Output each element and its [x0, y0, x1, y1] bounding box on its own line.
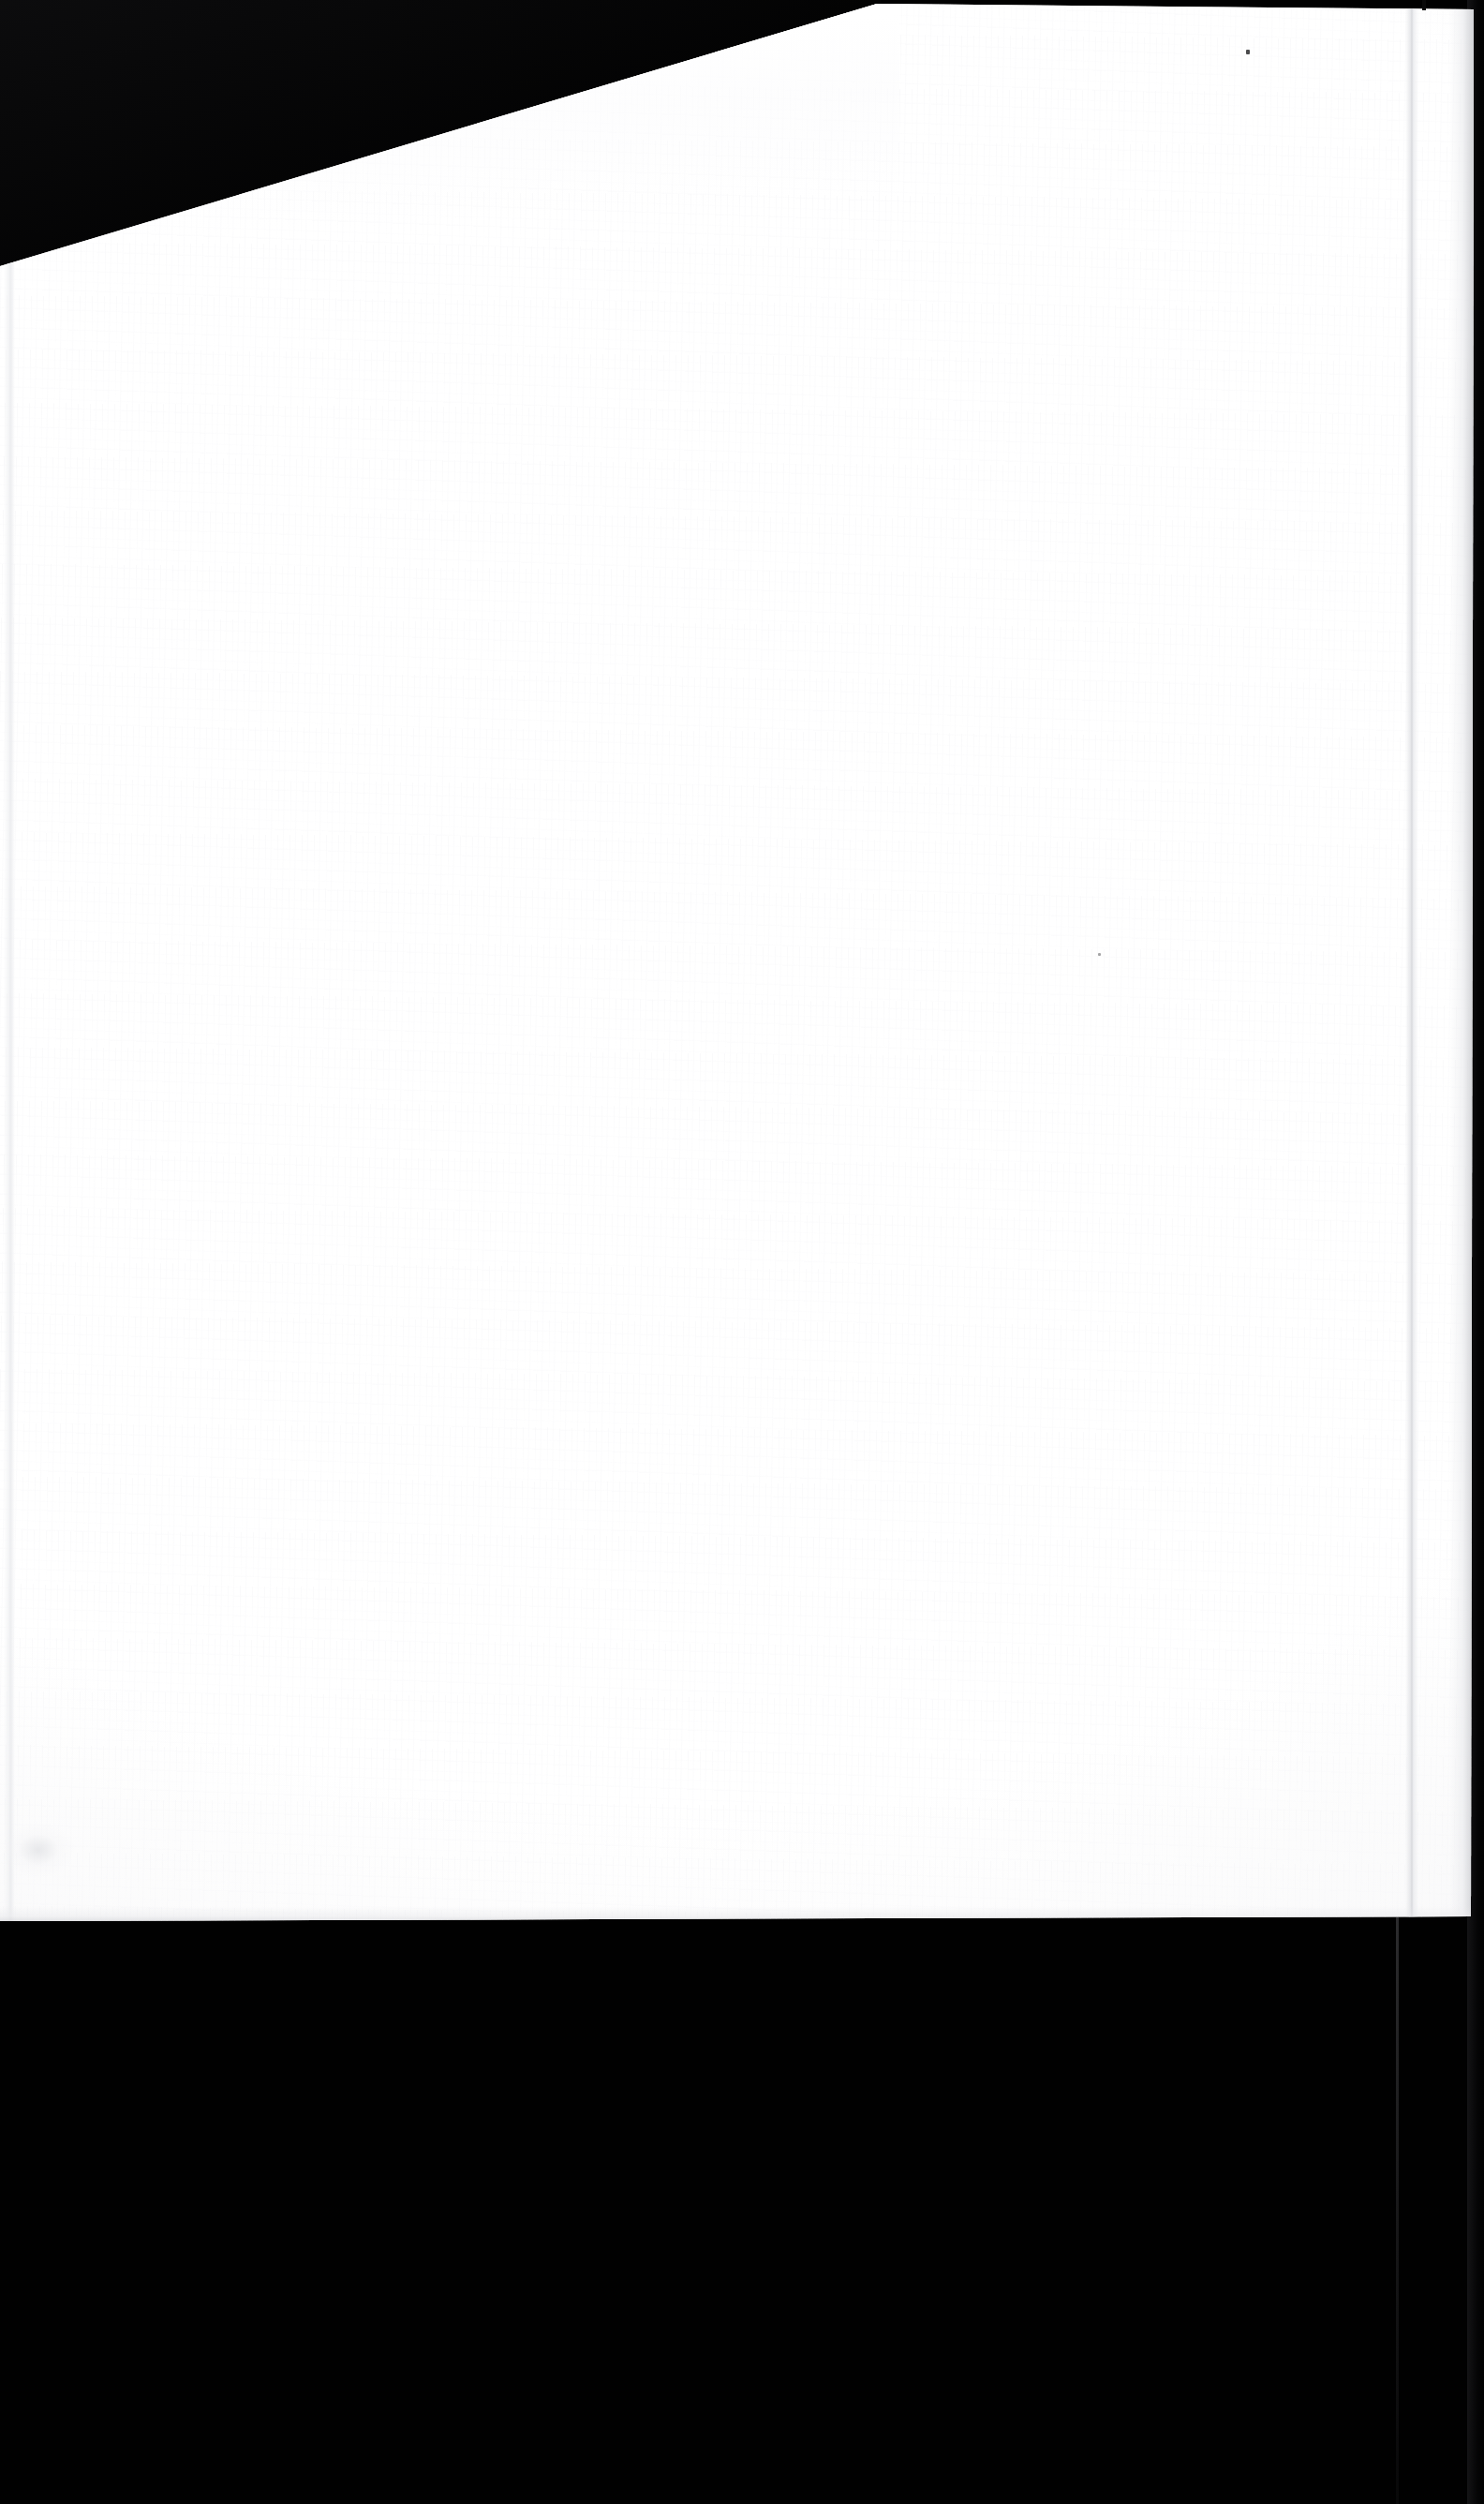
scanned-page	[0, 0, 1474, 1923]
scan-viewport: Blank scanned page	[0, 0, 1484, 2504]
dust-speck-icon	[1098, 953, 1101, 956]
background-crease-line	[1396, 1917, 1399, 2504]
page-edge-notch	[1422, 0, 1426, 10]
dust-speck-icon	[1246, 50, 1250, 54]
page-body-text	[0, 0, 1474, 1923]
